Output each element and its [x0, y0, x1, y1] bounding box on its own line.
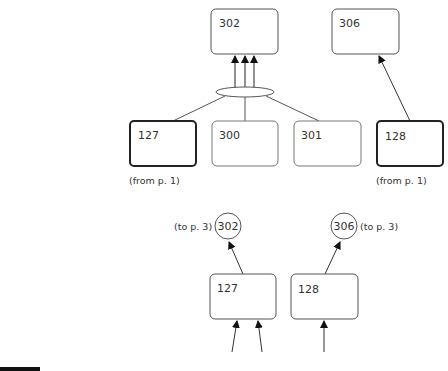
- svg-text:302: 302: [218, 220, 239, 233]
- svg-text:128: 128: [385, 130, 406, 143]
- figure-caption-bar: [0, 367, 40, 371]
- svg-text:301: 301: [301, 129, 322, 142]
- box-300: 300: [212, 121, 278, 166]
- connector-306: 306: [331, 213, 357, 239]
- box-128-lower: 128: [291, 274, 358, 319]
- arrow-127-to-302: [229, 242, 243, 274]
- svg-text:128: 128: [298, 283, 319, 296]
- to-note-302: (to p. 3): [174, 221, 212, 232]
- svg-text:127: 127: [217, 282, 238, 295]
- arrows-into-302: [235, 56, 254, 88]
- arrow-128-to-306: [379, 56, 410, 121]
- to-note-306: (to p. 3): [360, 221, 398, 232]
- junction-ellipse: [216, 87, 274, 97]
- connector-302: 302: [215, 213, 241, 239]
- svg-text:302: 302: [219, 17, 240, 30]
- from-note-127: (from p. 1): [129, 175, 180, 186]
- from-note-128: (from p. 1): [376, 175, 427, 186]
- box-127-lower: 127: [210, 274, 276, 319]
- incoming-arrows: [232, 321, 324, 352]
- svg-text:306: 306: [339, 17, 360, 30]
- junction-lines: [173, 96, 319, 121]
- box-306: 306: [332, 9, 399, 54]
- svg-text:306: 306: [334, 220, 355, 233]
- svg-text:300: 300: [219, 129, 240, 142]
- box-301: 301: [294, 121, 361, 166]
- box-128-upper: 128: [377, 121, 443, 166]
- flow-diagram: 302 306 127 300 301 128 (from p. 1) (fro…: [0, 0, 448, 371]
- svg-text:127: 127: [138, 129, 159, 142]
- arrow-128-to-306: [325, 242, 340, 274]
- box-302: 302: [211, 9, 278, 54]
- box-127-upper: 127: [130, 121, 196, 166]
